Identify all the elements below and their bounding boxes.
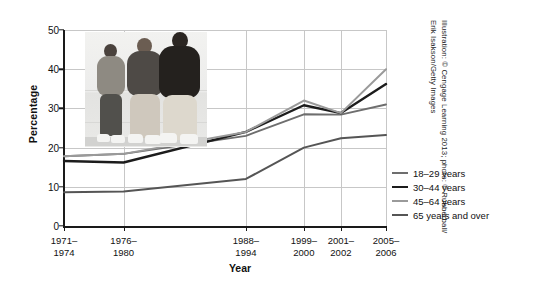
credit-line-2: Erik Isakson/Getty Images [428, 20, 439, 270]
x-tick-label: 2005–2006 [358, 235, 414, 258]
photo-person-shoe [180, 134, 198, 144]
credit-line-1: Illustration: © Cengage Learning 2013; p… [439, 20, 450, 270]
gridline-vertical [386, 30, 387, 226]
image-credit: Illustration: © Cengage Learning 2013; p… [428, 20, 449, 270]
photo-person-right [159, 32, 201, 144]
photo-person-left [95, 44, 128, 144]
legend-line-swatch [392, 172, 408, 174]
legend-line-swatch [392, 200, 408, 202]
photo-person-torso [159, 46, 200, 98]
photo-person-legs [130, 94, 160, 138]
x-tick-label-line2: 1980 [96, 247, 152, 259]
photograph-three-people [85, 32, 207, 147]
x-tick-label-line2: 1994 [218, 247, 274, 259]
y-axis-title: Percentage [27, 59, 39, 169]
x-tick-label: 1976–1980 [96, 235, 152, 258]
photo-person-torso [127, 51, 163, 96]
photo-person-shoe [128, 134, 143, 143]
legend-item-label: 65 years and over [413, 210, 489, 221]
y-tick-label: 20 [48, 142, 59, 153]
legend-line-swatch [392, 214, 408, 216]
photo-person-torso [97, 56, 125, 96]
photo-person-shoe [97, 134, 110, 142]
x-tick-label-line2: 2006 [358, 247, 414, 259]
y-tick-label: 30 [48, 103, 59, 114]
x-tick-label-line1: 2005– [358, 235, 414, 247]
x-tick-label-line1: 1971– [36, 235, 92, 247]
x-tick-label-line1: 1988– [218, 235, 274, 247]
photo-person-legs [100, 94, 122, 136]
x-tick-label-line2: 1974 [36, 247, 92, 259]
x-tick-label-line1: 1976– [96, 235, 152, 247]
photo-person-shoe [160, 133, 177, 143]
x-axis-title: Year [150, 262, 330, 274]
y-tick-label: 10 [48, 181, 59, 192]
plot-area: 01020304050 1971–19741976–19801988–19941… [64, 30, 386, 226]
x-tick-label: 1988–1994 [218, 235, 274, 258]
x-tick-label: 1971–1974 [36, 235, 92, 258]
y-tick-label: 50 [48, 25, 59, 36]
legend-line-swatch [392, 186, 408, 188]
chart-figure: Percentage Year 01020304050 1971–1974197… [0, 0, 545, 291]
y-tick-label: 0 [53, 221, 59, 232]
photo-person-shoe [111, 135, 125, 143]
x-axis-line [63, 226, 387, 228]
y-tick-label: 40 [48, 64, 59, 75]
